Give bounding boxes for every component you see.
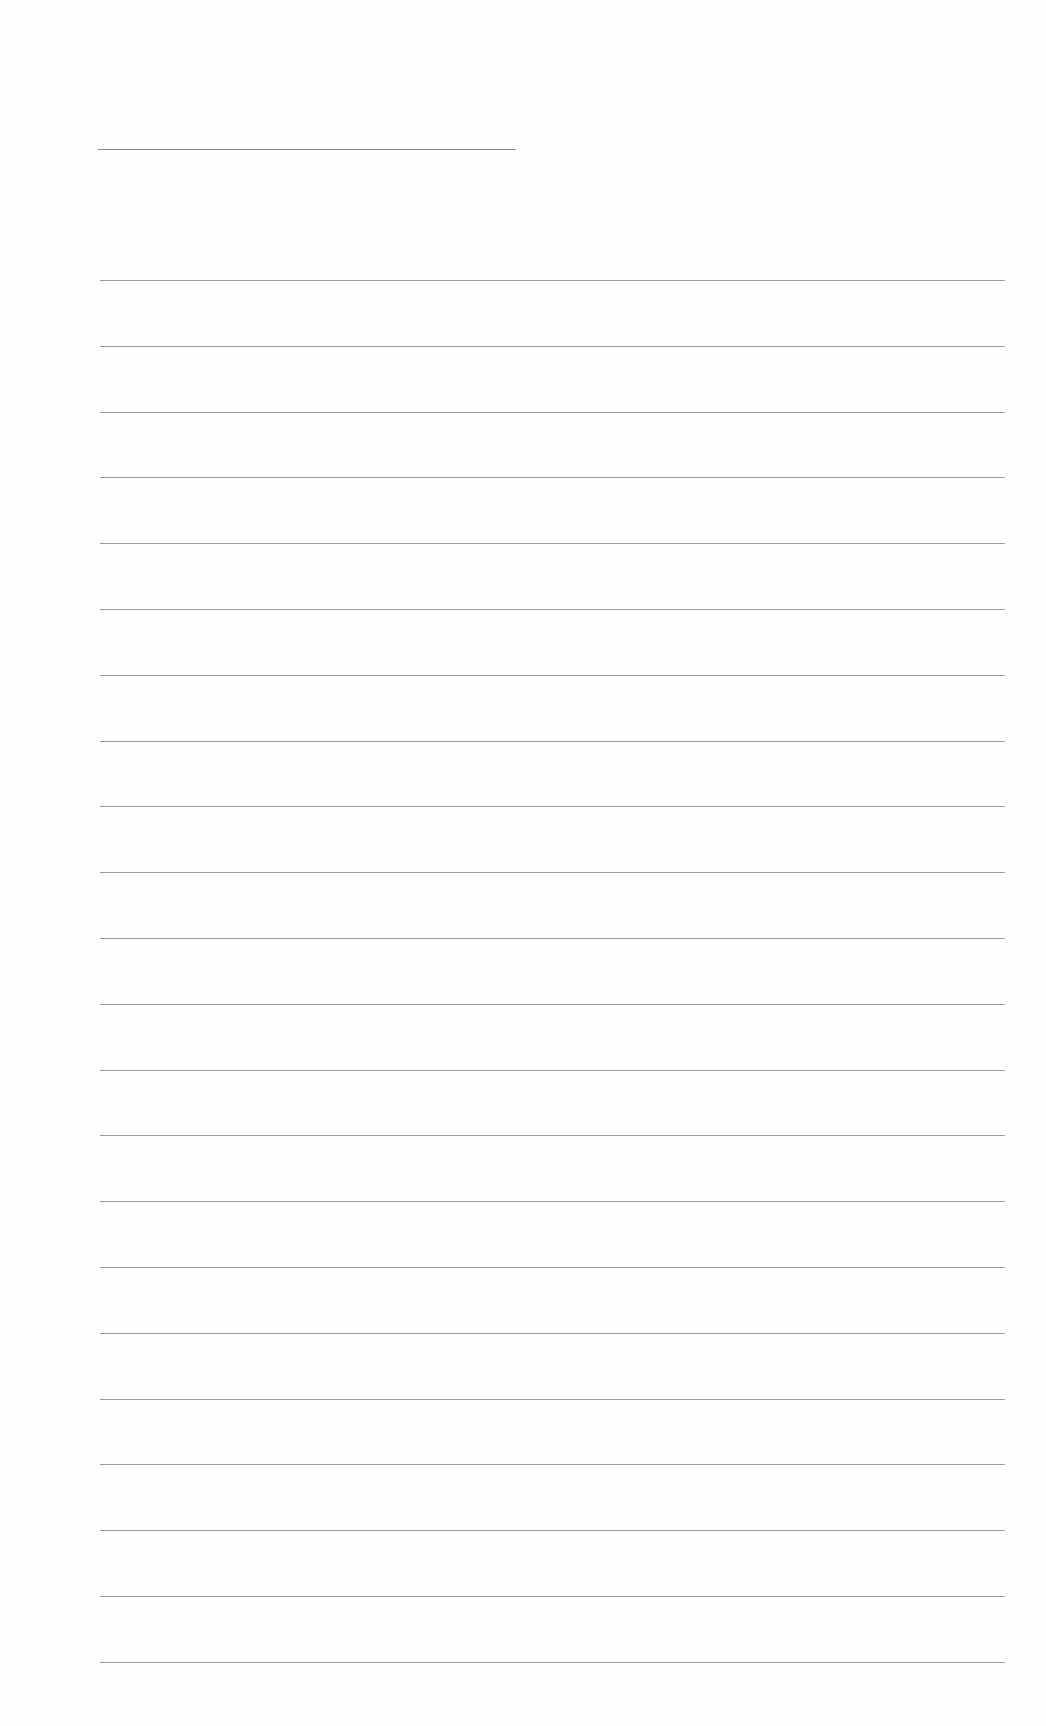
ruled-line [100,609,1005,610]
ruled-line [100,1530,1005,1531]
ruled-line [100,1596,1005,1597]
ruled-line [100,346,1005,347]
ruled-line [100,1662,1005,1663]
ruled-line [100,1333,1005,1334]
ruled-line [100,806,1005,807]
ruled-line [100,477,1005,478]
ruled-line [100,1464,1005,1465]
ruled-line [100,1201,1005,1202]
ruled-line [100,675,1005,676]
ruled-line [100,1070,1005,1071]
lined-paper-page [0,0,1046,1726]
ruled-line [100,543,1005,544]
ruled-line [100,938,1005,939]
ruled-line [100,1135,1005,1136]
ruled-line [100,412,1005,413]
ruled-line [100,1004,1005,1005]
ruled-line [100,1399,1005,1400]
ruled-line [100,280,1005,281]
ruled-line [100,872,1005,873]
ruled-lines-container [100,0,1005,1726]
ruled-line [100,741,1005,742]
ruled-line [100,1267,1005,1268]
